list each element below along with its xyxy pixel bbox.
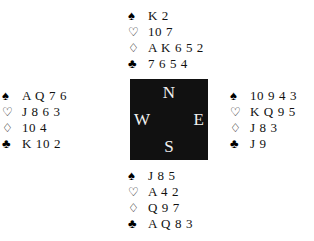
hand-west-diamonds-row: ♢ 10 4: [2, 120, 67, 136]
club-icon: ♣: [230, 136, 250, 152]
bridge-hand-diagram: ♠ K 2 ♡ 10 7 ♢ A K 6 5 2 ♣ 7 6 5 4 ♠ A Q…: [0, 0, 314, 241]
heart-icon: ♡: [230, 104, 250, 120]
hand-east-clubs: J 9: [250, 136, 267, 152]
heart-icon: ♡: [2, 104, 22, 120]
diamond-icon: ♢: [230, 120, 250, 136]
hand-north-spades: K 2: [148, 8, 169, 24]
hand-west-clubs: K 10 2: [22, 136, 61, 152]
heart-icon: ♡: [128, 24, 148, 40]
diamond-icon: ♢: [128, 40, 148, 56]
hand-west-spades: A Q 7 6: [22, 88, 67, 104]
hand-east-hearts: K Q 9 5: [250, 104, 296, 120]
diamond-icon: ♢: [128, 200, 148, 216]
hand-east-spades-row: ♠ 10 9 4 3: [230, 88, 297, 104]
compass-label-east: E: [194, 111, 204, 128]
hand-north-clubs: 7 6 5 4: [148, 56, 188, 72]
diamond-icon: ♢: [2, 120, 22, 136]
hand-north-diamonds: A K 6 5 2: [148, 40, 204, 56]
hand-north-diamonds-row: ♢ A K 6 5 2: [128, 40, 204, 56]
spade-icon: ♠: [230, 88, 250, 104]
hand-north-clubs-row: ♣ 7 6 5 4: [128, 56, 204, 72]
hand-west-diamonds: 10 4: [22, 120, 47, 136]
hand-east-spades: 10 9 4 3: [250, 88, 297, 104]
hand-south-spades: J 8 5: [148, 168, 176, 184]
compass-label-south: S: [130, 138, 208, 155]
hand-east-diamonds-row: ♢ J 8 3: [230, 120, 297, 136]
hand-west-clubs-row: ♣ K 10 2: [2, 136, 67, 152]
hand-north: ♠ K 2 ♡ 10 7 ♢ A K 6 5 2 ♣ 7 6 5 4: [128, 8, 204, 72]
hand-west-hearts: J 8 6 3: [22, 104, 61, 120]
club-icon: ♣: [2, 136, 22, 152]
spade-icon: ♠: [128, 8, 148, 24]
compass-label-west: W: [134, 111, 150, 128]
hand-east: ♠ 10 9 4 3 ♡ K Q 9 5 ♢ J 8 3 ♣ J 9: [230, 88, 297, 152]
hand-east-hearts-row: ♡ K Q 9 5: [230, 104, 297, 120]
hand-north-spades-row: ♠ K 2: [128, 8, 204, 24]
club-icon: ♣: [128, 216, 148, 232]
hand-west-hearts-row: ♡ J 8 6 3: [2, 104, 67, 120]
hand-north-hearts-row: ♡ 10 7: [128, 24, 204, 40]
hand-east-diamonds: J 8 3: [250, 120, 278, 136]
hand-south: ♠ J 8 5 ♡ A 4 2 ♢ Q 9 7 ♣ A Q 8 3: [128, 168, 193, 232]
hand-south-diamonds-row: ♢ Q 9 7: [128, 200, 193, 216]
hand-south-hearts-row: ♡ A 4 2: [128, 184, 193, 200]
hand-south-spades-row: ♠ J 8 5: [128, 168, 193, 184]
hand-west-spades-row: ♠ A Q 7 6: [2, 88, 67, 104]
spade-icon: ♠: [2, 88, 22, 104]
hand-south-diamonds: Q 9 7: [148, 200, 180, 216]
compass-label-north: N: [130, 84, 208, 101]
heart-icon: ♡: [128, 184, 148, 200]
spade-icon: ♠: [128, 168, 148, 184]
hand-south-clubs: A Q 8 3: [148, 216, 193, 232]
hand-east-clubs-row: ♣ J 9: [230, 136, 297, 152]
hand-west: ♠ A Q 7 6 ♡ J 8 6 3 ♢ 10 4 ♣ K 10 2: [2, 88, 67, 152]
hand-south-clubs-row: ♣ A Q 8 3: [128, 216, 193, 232]
hand-south-hearts: A 4 2: [148, 184, 179, 200]
hand-north-hearts: 10 7: [148, 24, 173, 40]
club-icon: ♣: [128, 56, 148, 72]
compass-box: N W E S: [130, 79, 208, 160]
